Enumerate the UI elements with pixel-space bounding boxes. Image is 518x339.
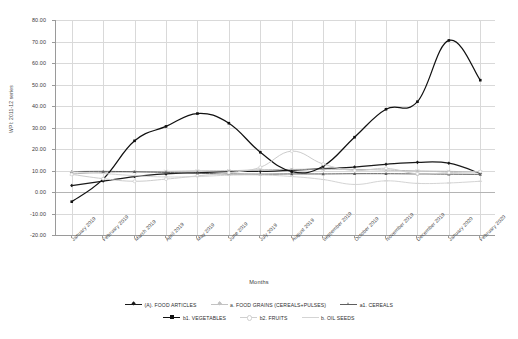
data-point-marker bbox=[447, 182, 451, 183]
legend-marker-square-icon bbox=[163, 314, 180, 321]
data-point-marker bbox=[196, 112, 199, 115]
y-axis-ticks: 80.0070.0060.0050.0040.0030.0020.0010.00… bbox=[0, 0, 52, 339]
data-point-marker bbox=[164, 176, 168, 177]
data-point-marker bbox=[353, 184, 357, 185]
y-tick-label: 30.00 bbox=[32, 125, 46, 131]
data-point-marker bbox=[165, 178, 168, 181]
y-tick-label: 10.00 bbox=[32, 168, 46, 174]
legend-marker-circle-icon bbox=[240, 314, 257, 321]
data-point-marker bbox=[321, 179, 325, 180]
legend-marker-diamond-icon bbox=[125, 301, 142, 308]
chart-legend: (A). FOOD ARTICLESa. FOOD GRAINS (CEREAL… bbox=[0, 298, 518, 324]
data-point-marker bbox=[416, 161, 419, 165]
y-tick-label: 80.00 bbox=[32, 17, 46, 23]
legend-label: (A). FOOD ARTICLES bbox=[144, 302, 196, 308]
data-point-marker bbox=[70, 171, 74, 172]
legend-row-2: b1. VEGETABLESb2. FRUITSb. OIL SEEDS bbox=[0, 311, 518, 324]
data-point-marker bbox=[384, 180, 388, 181]
data-point-marker bbox=[353, 136, 356, 139]
data-point-marker bbox=[290, 150, 293, 153]
y-tick-label: -10.00 bbox=[30, 211, 46, 217]
data-point-marker bbox=[228, 122, 231, 125]
data-point-marker bbox=[448, 39, 451, 42]
data-point-marker bbox=[259, 151, 262, 154]
data-point-marker bbox=[384, 162, 387, 166]
legend-item[interactable]: (A). FOOD ARTICLES bbox=[125, 301, 197, 308]
y-tick-label: 40.00 bbox=[32, 103, 46, 109]
y-tick-label: 0.00 bbox=[35, 189, 46, 195]
data-point-marker bbox=[165, 125, 168, 128]
data-point-marker bbox=[447, 161, 450, 165]
series-layer bbox=[56, 20, 496, 235]
series-b2-fruits bbox=[70, 150, 482, 183]
legend-item[interactable]: b1. VEGETABLES bbox=[163, 314, 226, 321]
data-point-marker bbox=[322, 163, 325, 166]
legend-marker-cross-icon bbox=[211, 301, 228, 308]
data-point-marker bbox=[227, 171, 230, 174]
data-point-marker bbox=[478, 181, 482, 182]
data-point-marker bbox=[101, 173, 105, 174]
data-point-marker bbox=[133, 140, 136, 143]
y-tick-label: 20.00 bbox=[32, 146, 46, 152]
data-point-marker bbox=[133, 180, 136, 183]
series-b1-vegetables bbox=[70, 39, 481, 203]
legend-item[interactable]: b2. FRUITS bbox=[240, 314, 287, 321]
data-point-marker bbox=[416, 100, 419, 103]
data-point-marker bbox=[290, 176, 294, 177]
legend-row-1: (A). FOOD ARTICLESa. FOOD GRAINS (CEREAL… bbox=[0, 298, 518, 311]
data-point-marker bbox=[259, 166, 262, 169]
legend-marker-dash-icon bbox=[302, 314, 319, 321]
legend-label: a1. CEREALS bbox=[360, 302, 393, 308]
data-point-marker bbox=[290, 170, 293, 173]
series-line bbox=[72, 40, 481, 202]
data-point-marker bbox=[416, 172, 419, 175]
data-point-marker bbox=[385, 108, 388, 111]
data-point-marker bbox=[133, 175, 137, 176]
data-point-marker bbox=[196, 176, 200, 177]
x-axis-title: Months bbox=[0, 279, 518, 285]
plot-area bbox=[55, 20, 495, 235]
legend-item[interactable]: b. OIL SEEDS bbox=[302, 314, 355, 321]
y-tick-label: 50.00 bbox=[32, 82, 46, 88]
legend-label: b. OIL SEEDS bbox=[321, 315, 355, 321]
data-point-marker bbox=[227, 175, 231, 176]
legend-item[interactable]: a1. CEREALS bbox=[340, 301, 393, 308]
legend-label: b2. FRUITS bbox=[260, 315, 288, 321]
data-point-marker bbox=[447, 171, 450, 174]
y-tick-label: 70.00 bbox=[32, 39, 46, 45]
legend-item[interactable]: a. FOOD GRAINS (CEREALS+PULSES) bbox=[211, 301, 327, 308]
data-point-marker bbox=[102, 177, 105, 180]
data-point-marker bbox=[479, 170, 482, 173]
data-point-marker bbox=[353, 169, 356, 172]
y-tick-label: 60.00 bbox=[32, 60, 46, 66]
data-point-marker bbox=[385, 167, 388, 170]
legend-marker-triangle-icon bbox=[340, 301, 357, 308]
data-point-marker bbox=[70, 173, 73, 176]
data-point-marker bbox=[416, 183, 420, 184]
legend-label: a. FOOD GRAINS (CEREALS+PULSES) bbox=[230, 302, 326, 308]
y-tick-label: -20.00 bbox=[30, 232, 46, 238]
legend-label: b1. VEGETABLES bbox=[183, 315, 226, 321]
data-point-marker bbox=[258, 175, 262, 176]
chart-root: WPI: 2011-12 series 80.0070.0060.0050.00… bbox=[0, 0, 518, 339]
series-b-oil-seeds bbox=[70, 171, 482, 185]
data-point-marker bbox=[479, 79, 482, 82]
x-axis-line bbox=[55, 235, 495, 236]
data-point-marker bbox=[70, 200, 73, 203]
data-point-marker bbox=[70, 184, 73, 188]
